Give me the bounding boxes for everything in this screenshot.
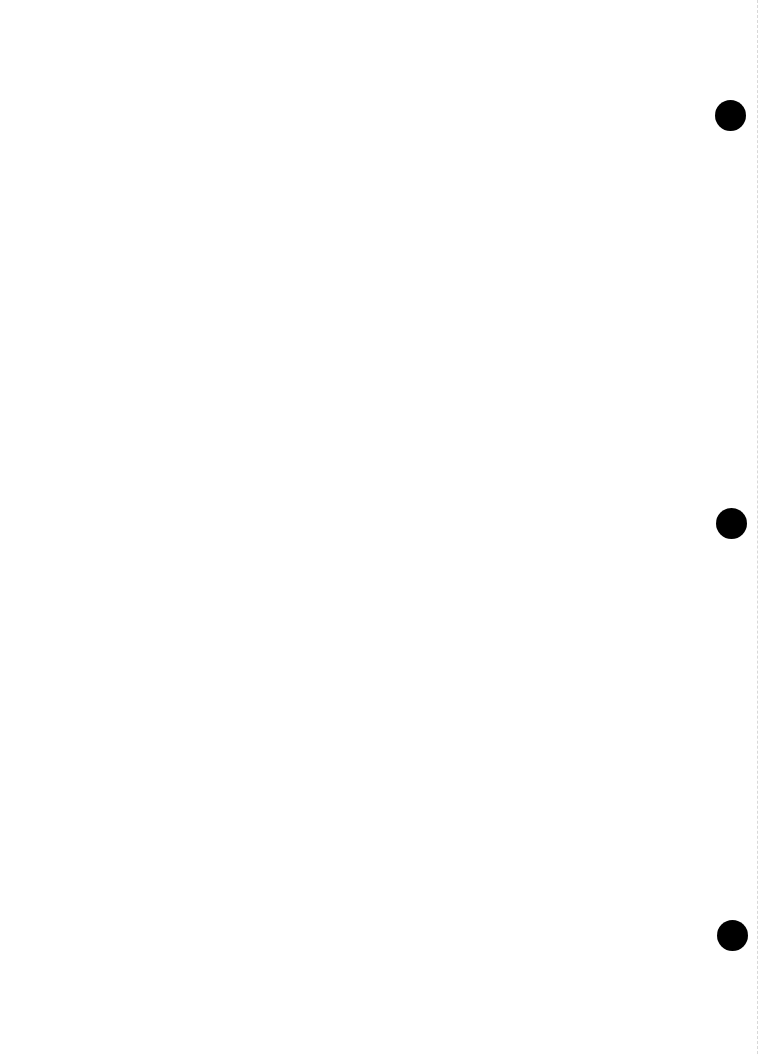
punch-hole-top [715, 100, 746, 131]
page-edge-line [757, 0, 758, 1054]
punch-hole-bottom [717, 920, 748, 951]
punch-hole-middle [716, 508, 747, 539]
blank-scanned-page [0, 0, 770, 1054]
